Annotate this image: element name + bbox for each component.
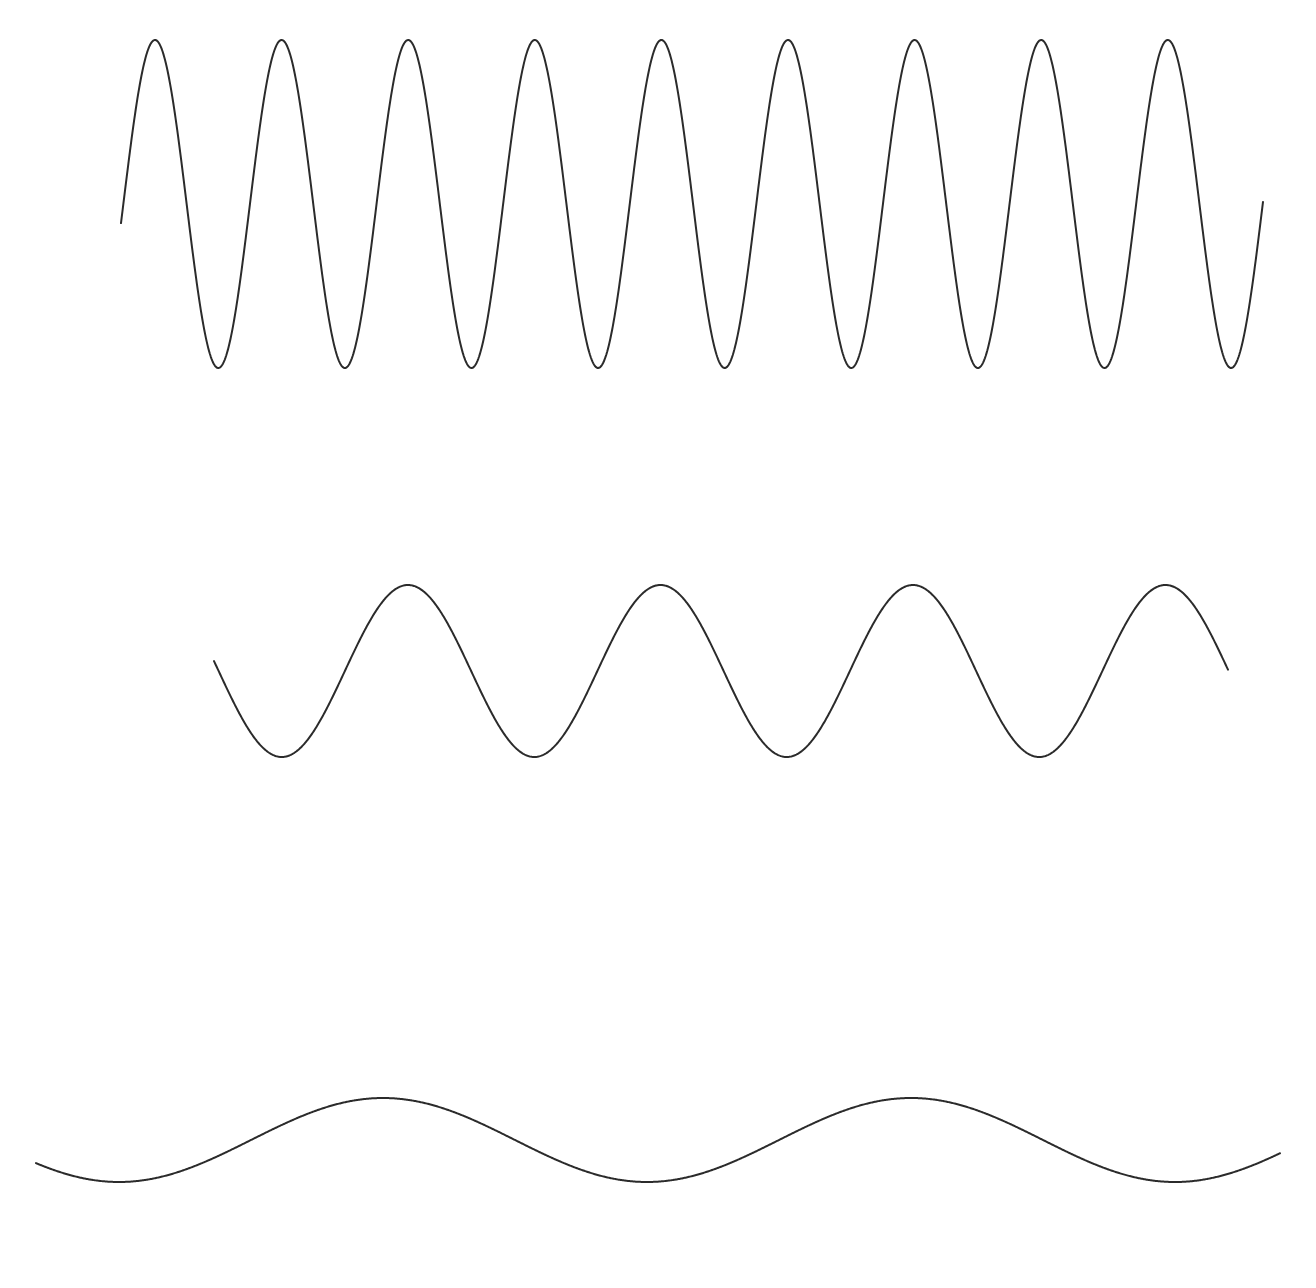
figure-background bbox=[0, 0, 1316, 1288]
waves-svg bbox=[0, 0, 1316, 1288]
figure-canvas bbox=[0, 0, 1316, 1288]
